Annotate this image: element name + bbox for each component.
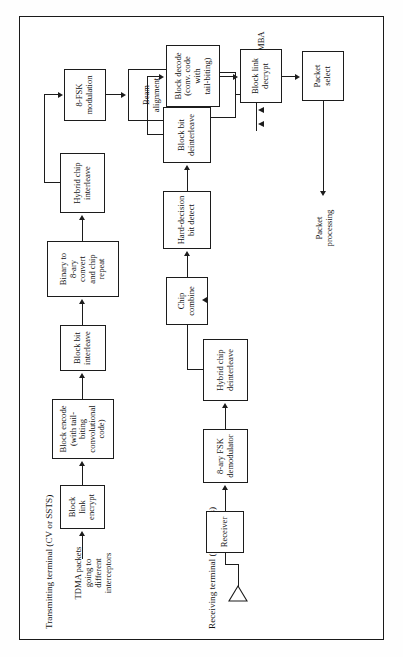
hard-decision-bit-detect-box: Hard-decisionbit detect: [163, 191, 211, 249]
tdma-input-label: TDMA packetsgoing todifferentinterceptor…: [74, 537, 114, 609]
connector-hybrid-up: [44, 182, 60, 183]
arrowhead-encode-to-bit-interleave: [79, 373, 85, 378]
mba-element-2: [258, 107, 264, 113]
arrowhead-decrypt-to-packet-select: [295, 74, 300, 80]
block-decode-box: Block decode(conv. code withtail-biting): [166, 45, 220, 107]
arrowhead-hybrid-to-8fsk: [58, 92, 63, 98]
block-link-encrypt-box: Blocklinkencrypt: [60, 485, 105, 529]
block-bit-deinterleave-box: Block bitdeinterleave: [163, 107, 211, 163]
8ary-fsk-demodulator-label: 8-ary FSKdemodulator: [216, 434, 235, 477]
block-encode-label: Block encode(with tail-bitingconvolution…: [59, 405, 107, 452]
diagram-canvas: Transmitting terminal (CV or SSTS) Recei…: [20, 17, 383, 639]
block-link-encrypt-label: Blocklinkencrypt: [68, 494, 97, 520]
connector-binary-to-hybrid: [82, 219, 83, 241]
beam-alignment-label: Beamalignment: [142, 78, 161, 112]
packet-select-label: Packetselect: [313, 65, 332, 88]
binary-to-8ary-box: Binary to8-aryconvertand chiprepeat: [47, 241, 119, 297]
block-link-decrypt-box: Block linkdecrypt: [240, 49, 282, 103]
arrowhead-receiver-to-demod: [222, 485, 228, 490]
connector-encrypt-to-encode: [82, 465, 83, 485]
hybrid-chip-deinterleave-box: Hybrid chipdeinterleave: [203, 339, 248, 401]
hybrid-chip-interleave-box: Hybrid chipinterleave: [60, 153, 105, 213]
arrowhead-to-packet-processing: [320, 191, 326, 196]
transmit-section-caption: Transmitting terminal (CV or SSTS): [44, 495, 54, 629]
connector-bit-interleave-to-binary: [82, 303, 83, 325]
arrowhead-encrypt-to-encode: [79, 461, 85, 466]
hybrid-chip-interleave-label: Hybrid chipinterleave: [73, 162, 92, 203]
8fsk-modulation-box: 8-FSKmodulation: [64, 69, 106, 121]
connector-input-to-encrypt: [82, 535, 83, 559]
arrowhead-binary-to-hybrid: [79, 215, 85, 220]
arrowhead-8fsk-to-beam: [121, 92, 126, 98]
arrowhead-chip-combine-to-hard-decision: [184, 251, 190, 256]
hard-decision-bit-detect-label: Hard-decisionbit detect: [177, 196, 196, 245]
arrowhead-bit-interleave-to-binary: [79, 299, 85, 304]
arrowhead-decode-to-decrypt: [233, 74, 238, 80]
8fsk-modulation-label: 8-FSKmodulation: [75, 75, 94, 114]
packet-processing-label: Packetprocessing: [315, 199, 335, 257]
block-link-decrypt-label: Block linkdecrypt: [251, 58, 270, 94]
block-bit-interleave-label: Block bitinterleave: [73, 331, 92, 365]
connector-encode-to-bit-interleave: [82, 377, 83, 399]
connector-antenna-riser: [225, 564, 239, 565]
arrowhead-demod-to-hybrid-deint: [222, 403, 228, 408]
figure-page: Transmitting terminal (CV or SSTS) Recei…: [0, 0, 403, 657]
arrowhead-block-deint-to-decode: [159, 74, 164, 80]
connector-antenna-to-receiver: [238, 565, 239, 587]
connector-packet-select-to-processing: [323, 101, 324, 191]
figure-frame: Transmitting terminal (CV or SSTS) Recei…: [19, 16, 384, 640]
connector-hybrid-over: [44, 95, 45, 183]
8ary-fsk-demodulator-box: 8-ary FSKdemodulator: [203, 429, 248, 483]
arrowhead-input-to-encrypt: [79, 531, 85, 536]
connector-chip-combine-to-hard-decision: [187, 255, 188, 277]
hybrid-chip-deinterleave-label: Hybrid chipdeinterleave: [216, 349, 235, 391]
chip-combine-label: Chipcombine: [177, 286, 196, 316]
mba-element-1: [258, 121, 264, 127]
connector-block-deint-up: [147, 134, 163, 135]
binary-to-8ary-label: Binary to8-aryconvertand chiprepeat: [59, 253, 107, 285]
block-encode-box: Block encode(with tail-bitingconvolution…: [52, 399, 114, 459]
connector-block-deint-over: [147, 77, 148, 135]
arrowhead-hybrid-deint-to-chip-combine: [202, 297, 207, 303]
block-bit-interleave-box: Block bitinterleave: [60, 325, 106, 371]
arrowhead-hard-decision-to-block-deint: [184, 165, 190, 170]
connector-demod-to-hybrid-deint: [225, 407, 226, 429]
connector-hard-decision-to-block-deint: [187, 169, 188, 191]
block-bit-deinterleave-label: Block bitdeinterleave: [177, 114, 196, 156]
connector-receiver-to-demod: [225, 489, 226, 511]
packet-select-box: Packetselect: [302, 51, 344, 101]
connector-hybrid-deint-up: [187, 369, 203, 370]
receiver-label: Receiver: [220, 517, 230, 548]
connector-antenna-into-receiver: [225, 553, 226, 565]
receiver-box: Receiver: [206, 511, 244, 553]
block-decode-label: Block decode(conv. code withtail-biting): [174, 48, 213, 104]
